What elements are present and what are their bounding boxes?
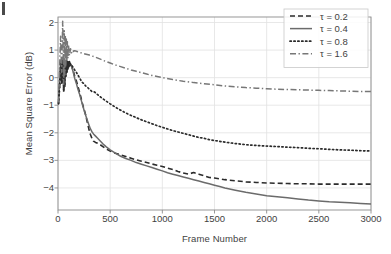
legend-label: τ = 0.2 bbox=[320, 11, 348, 22]
y-tick-label: −4 bbox=[32, 183, 54, 193]
y-tick-label: 1 bbox=[32, 45, 54, 55]
x-tick-label: 2000 bbox=[245, 214, 289, 224]
chart-figure: Mean Square Error (dB) Frame Number 210−… bbox=[0, 0, 391, 254]
legend-label: τ = 0.8 bbox=[320, 36, 348, 47]
y-tick-label: −2 bbox=[32, 128, 54, 138]
page-edge-artifact bbox=[2, 2, 5, 15]
legend-label: τ = 0.4 bbox=[320, 23, 348, 34]
legend: τ = 0.2τ = 0.4τ = 0.8τ = 1.6 bbox=[284, 9, 368, 67]
x-tick-label: 1500 bbox=[193, 214, 237, 224]
y-tick-label: −3 bbox=[32, 155, 54, 165]
x-axis-title: Frame Number bbox=[58, 233, 371, 244]
y-tick-label: 2 bbox=[32, 18, 54, 28]
x-tick-label: 2500 bbox=[297, 214, 341, 224]
y-tick-label: −1 bbox=[32, 100, 54, 110]
x-tick-label: 500 bbox=[88, 214, 132, 224]
x-tick-label: 0 bbox=[36, 214, 80, 224]
legend-label: τ = 1.6 bbox=[320, 48, 348, 59]
x-tick-label: 3000 bbox=[349, 214, 391, 224]
y-tick-label: 0 bbox=[32, 73, 54, 83]
x-tick-label: 1000 bbox=[140, 214, 184, 224]
